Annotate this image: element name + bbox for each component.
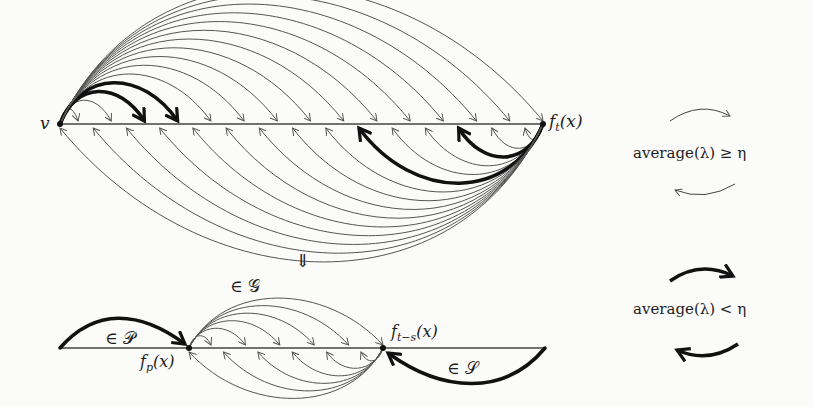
node-ft-label: ft(x) [549, 111, 583, 134]
condition-low-label: average(λ) < η [633, 300, 746, 318]
cycle-arrow-top-thin [670, 109, 730, 121]
cycle-arrow-bottom-bold [677, 344, 738, 356]
cycle-arrow-bottom-thin [675, 184, 735, 195]
lower-backward-arc [258, 348, 383, 383]
lower-forward-arc [189, 306, 349, 348]
top-diagram [57, 0, 546, 262]
backward-arc [93, 124, 543, 253]
backward-arc [126, 124, 543, 244]
lower-forward-arc [189, 328, 245, 348]
backward-arc [392, 124, 543, 175]
lower-forward-arc [189, 313, 314, 348]
lower-backward-arc [223, 348, 383, 391]
node-v-label: v [40, 113, 50, 133]
condition-high-label: average(λ) ≥ η [633, 144, 746, 162]
node-ft [540, 121, 546, 127]
forward-arc [60, 4, 477, 124]
bold-forward-arc [60, 83, 178, 124]
lower-backward-arc [292, 348, 383, 376]
bold-forward-arc [60, 91, 144, 124]
bottom-diagram [58, 298, 547, 398]
set-s-label: ∈ 𝒮 [447, 358, 478, 378]
node-fts [380, 345, 386, 351]
lower-backward-arc [327, 348, 383, 368]
forward-arc [60, 74, 211, 124]
node-fp [186, 345, 192, 351]
node-v [57, 121, 63, 127]
node-fp-label: fp(x) [140, 352, 174, 374]
set-p-label: ∈ 𝒫 [105, 328, 135, 348]
cycle-arrow-top-bold [670, 269, 733, 281]
node-fts-label: ft−s(x) [391, 322, 438, 344]
forward-arc [60, 22, 410, 124]
forward-arc [60, 57, 277, 124]
implies-arrow: ⇓ [295, 250, 310, 271]
forward-arc [60, 13, 443, 124]
set-g-label: ∈ 𝒢 [230, 276, 260, 296]
